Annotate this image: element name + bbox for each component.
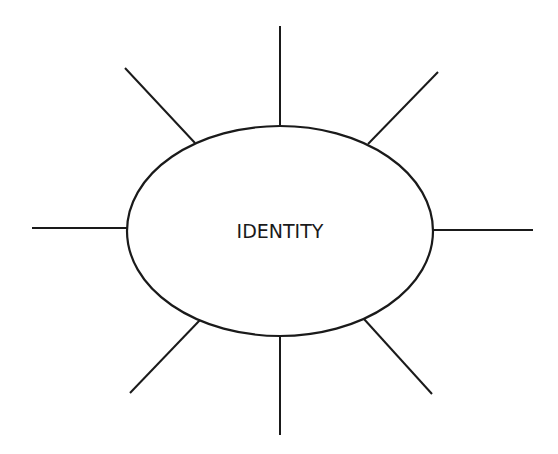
- spoke-bottom-left: [130, 320, 200, 393]
- spoke-top-right: [368, 72, 438, 144]
- spoke-top-left: [125, 68, 195, 143]
- spoke-bottom-right: [364, 319, 432, 394]
- center-label: IDENTITY: [180, 216, 380, 246]
